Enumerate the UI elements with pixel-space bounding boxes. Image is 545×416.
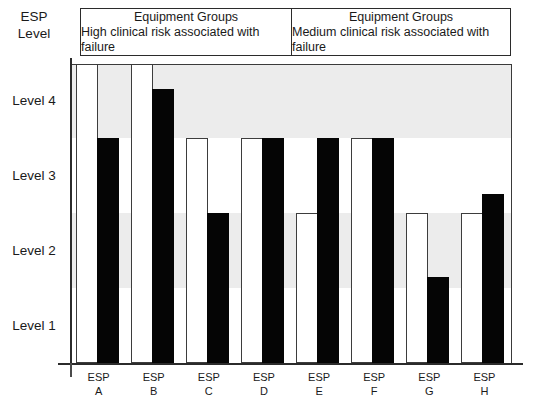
y-tick-label-level-3: Level 3 <box>0 168 68 183</box>
bar-black-E <box>317 138 339 363</box>
y-tick-label-level-4: Level 4 <box>0 93 68 108</box>
y-tick-label-level-1: Level 1 <box>0 318 68 333</box>
x-tick-line1: ESP <box>457 370 512 384</box>
bar-black-G <box>427 277 449 363</box>
x-tick-line1: ESP <box>347 370 402 384</box>
x-tick-line2: D <box>236 384 291 398</box>
group-header-high-risk: Equipment Groups High clinical risk asso… <box>80 8 291 56</box>
bar-white-C <box>186 138 208 363</box>
bar-black-A <box>97 138 119 363</box>
x-tick-line2: H <box>457 384 512 398</box>
x-tick-label-E: ESPE <box>292 370 347 398</box>
group-header-subtitle: High clinical risk associated with failu… <box>81 25 291 55</box>
x-tick-label-G: ESPG <box>402 370 457 398</box>
x-tick-line2: B <box>126 384 181 398</box>
x-tick-line1: ESP <box>236 370 291 384</box>
y-axis-line <box>70 58 72 370</box>
x-tick-label-C: ESPC <box>181 370 236 398</box>
x-tick-label-A: ESPA <box>71 370 126 398</box>
bar-white-E <box>296 213 318 363</box>
group-header-title: Equipment Groups <box>134 10 238 25</box>
x-tick-line1: ESP <box>71 370 126 384</box>
y-axis-caption: ESP Level <box>0 8 68 42</box>
group-header-subtitle: Medium clinical risk associated with fai… <box>292 25 510 55</box>
bar-black-F <box>372 138 394 363</box>
x-tick-line1: ESP <box>181 370 236 384</box>
bar-black-B <box>152 89 174 363</box>
bar-white-H <box>461 213 483 363</box>
group-header-title: Equipment Groups <box>349 10 453 25</box>
x-tick-label-D: ESPD <box>236 370 291 398</box>
bar-black-D <box>262 138 284 363</box>
chart-figure: ESP Level Equipment Groups High clinical… <box>0 0 545 416</box>
bar-white-F <box>351 138 373 363</box>
x-tick-line2: F <box>347 384 402 398</box>
x-tick-line2: E <box>292 384 347 398</box>
x-axis-line <box>58 363 523 365</box>
y-tick-label-level-2: Level 2 <box>0 243 68 258</box>
bar-white-B <box>131 64 153 363</box>
y-axis-caption-line1: ESP <box>20 9 47 24</box>
x-tick-line1: ESP <box>292 370 347 384</box>
bar-black-C <box>207 213 229 363</box>
bar-white-D <box>241 138 263 363</box>
y-axis-caption-line2: Level <box>18 26 50 41</box>
group-header-medium-risk: Equipment Groups Medium clinical risk as… <box>291 8 511 56</box>
x-tick-line2: G <box>402 384 457 398</box>
bar-black-H <box>482 194 504 363</box>
x-tick-line2: A <box>71 384 126 398</box>
x-tick-line1: ESP <box>126 370 181 384</box>
x-tick-label-F: ESPF <box>347 370 402 398</box>
x-tick-label-B: ESPB <box>126 370 181 398</box>
bar-white-G <box>406 213 428 363</box>
x-tick-label-H: ESPH <box>457 370 512 398</box>
bar-white-A <box>76 64 98 363</box>
plot-area <box>71 64 512 364</box>
x-tick-line2: C <box>181 384 236 398</box>
x-tick-line1: ESP <box>402 370 457 384</box>
